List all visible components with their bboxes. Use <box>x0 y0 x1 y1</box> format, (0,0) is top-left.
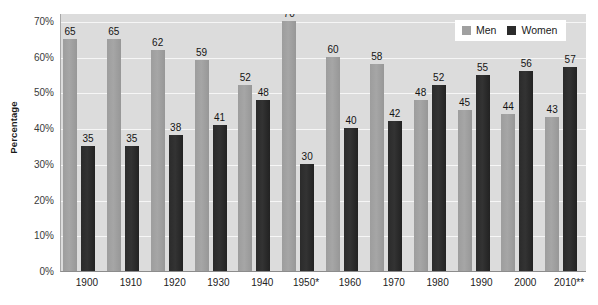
y-axis-tick: 60% <box>24 53 54 63</box>
bar-value-label: 41 <box>207 113 233 123</box>
legend-label: Men <box>476 25 496 36</box>
bar-group: 4555 <box>456 14 500 271</box>
bar-value-label: 60 <box>320 45 346 55</box>
y-axis-tick: 10% <box>24 231 54 241</box>
bar-women-1990[interactable]: 55 <box>476 75 490 271</box>
bar-value-label: 55 <box>470 63 496 73</box>
bar-men-1960[interactable]: 60 <box>326 57 340 271</box>
bar-value-label: 38 <box>163 123 189 133</box>
bar-value-label: 56 <box>513 59 539 69</box>
x-axis-tick: 2010** <box>539 277 598 288</box>
bar-group: 6535 <box>61 14 105 271</box>
bar-men-1920[interactable]: 62 <box>151 50 165 271</box>
y-axis-tick: 50% <box>24 88 54 98</box>
bar-men-1900[interactable]: 65 <box>63 39 77 271</box>
x-axis-tick-labels: 190019101920193019401950*196019701980199… <box>60 275 586 299</box>
bar-group: 4852 <box>412 14 456 271</box>
legend-swatch-icon <box>507 26 516 35</box>
legend-item-women[interactable]: Women <box>507 25 557 36</box>
bar-men-1990[interactable]: 45 <box>458 110 472 271</box>
bar-value-label: 57 <box>557 55 583 65</box>
bars-layer: 6535653562385941524870306040584248524555… <box>61 14 586 271</box>
y-axis-title: Percentage <box>8 78 19 178</box>
bar-women-2010[interactable]: 57 <box>563 67 577 271</box>
bar-group: 6535 <box>105 14 149 271</box>
bar-value-label: 62 <box>145 38 171 48</box>
bar-chart: Percentage 70%60%50%40%30%20%10%0% 65356… <box>0 0 598 305</box>
y-axis-tick: 40% <box>24 124 54 134</box>
legend-swatch-icon <box>462 26 471 35</box>
bar-value-label: 65 <box>101 27 127 37</box>
bar-women-1900[interactable]: 35 <box>81 146 95 271</box>
plot-area: 6535653562385941524870306040584248524555… <box>60 14 586 272</box>
bar-men-1930[interactable]: 59 <box>195 60 209 271</box>
bar-value-label: 52 <box>232 73 258 83</box>
legend-item-men[interactable]: Men <box>462 25 496 36</box>
bar-women-1930[interactable]: 41 <box>213 125 227 271</box>
bar-men-1950[interactable]: 70 <box>282 21 296 271</box>
y-axis-tick: 70% <box>24 17 54 27</box>
bar-value-label: 52 <box>426 73 452 83</box>
bar-women-1950[interactable]: 30 <box>300 164 314 271</box>
bar-women-1960[interactable]: 40 <box>344 128 358 271</box>
bar-value-label: 58 <box>364 52 390 62</box>
bar-women-1970[interactable]: 42 <box>388 121 402 271</box>
bar-group: 4456 <box>499 14 543 271</box>
bar-value-label: 44 <box>495 102 521 112</box>
bar-women-2000[interactable]: 56 <box>519 71 533 271</box>
bar-value-label: 65 <box>60 27 83 37</box>
bar-group: 4357 <box>543 14 586 271</box>
bar-value-label: 48 <box>250 88 276 98</box>
y-axis-tick: 0% <box>24 267 54 277</box>
bar-value-label: 40 <box>338 116 364 126</box>
bar-men-1910[interactable]: 65 <box>107 39 121 271</box>
bar-group: 5248 <box>236 14 280 271</box>
bar-group: 6238 <box>149 14 193 271</box>
bar-group: 6040 <box>324 14 368 271</box>
y-axis-tick: 20% <box>24 196 54 206</box>
bar-value-label: 42 <box>382 109 408 119</box>
bar-men-1980[interactable]: 48 <box>414 100 428 271</box>
bar-value-label: 70 <box>276 14 302 19</box>
bar-group: 7030 <box>280 14 324 271</box>
bar-value-label: 35 <box>75 134 101 144</box>
bar-group: 5842 <box>368 14 412 271</box>
bar-men-1970[interactable]: 58 <box>370 64 384 271</box>
bar-women-1940[interactable]: 48 <box>256 100 270 271</box>
bar-value-label: 30 <box>294 152 320 162</box>
bar-value-label: 43 <box>539 105 565 115</box>
bar-group: 5941 <box>193 14 237 271</box>
bar-women-1920[interactable]: 38 <box>169 135 183 271</box>
bar-value-label: 35 <box>119 134 145 144</box>
bar-value-label: 45 <box>452 98 478 108</box>
bar-value-label: 59 <box>189 48 215 58</box>
bar-women-1980[interactable]: 52 <box>432 85 446 271</box>
bar-men-2000[interactable]: 44 <box>501 114 515 271</box>
legend-label: Women <box>521 25 557 36</box>
bar-men-2010[interactable]: 43 <box>545 117 559 271</box>
bar-value-label: 48 <box>408 88 434 98</box>
y-axis-tick: 30% <box>24 160 54 170</box>
chart-legend: MenWomen <box>455 20 566 41</box>
y-axis-tick-labels: 70%60%50%40%30%20%10%0% <box>22 0 54 305</box>
bar-women-1910[interactable]: 35 <box>125 146 139 271</box>
bar-men-1940[interactable]: 52 <box>238 85 252 271</box>
